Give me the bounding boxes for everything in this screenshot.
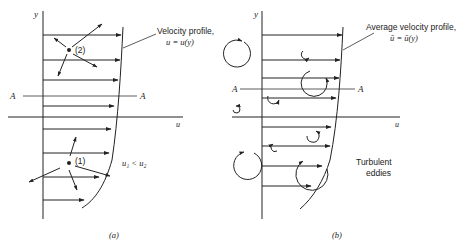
panel-a-caption: (a) — [109, 230, 119, 240]
u-axis-label: u — [395, 120, 399, 129]
eddy-icon — [271, 144, 277, 152]
section-label-left: A — [9, 91, 16, 101]
particle-arrow-icon — [69, 170, 77, 190]
particle-arrow-icon — [75, 166, 110, 176]
eddy-icon — [223, 40, 250, 67]
particle-arrow-icon — [58, 54, 67, 76]
fluid-particle-1 — [29, 137, 110, 190]
velocity-relation-label: u₁ < u₂ — [122, 158, 146, 168]
particle-2-label: (2) — [75, 45, 86, 55]
particle-1-label: (1) — [75, 156, 86, 166]
particle-dot-icon — [67, 48, 71, 52]
eddy-icon — [268, 96, 279, 104]
section-label-right: A — [139, 91, 146, 101]
average-velocity-profile-curve — [300, 27, 343, 209]
eddy-icon — [301, 51, 309, 59]
velocity-profile-diagram: y u A A Velocity profile, u = u(y) — [0, 0, 465, 243]
eddy-icon — [296, 161, 328, 190]
eddy-icon — [233, 106, 240, 113]
eddies-label-line2: eddies — [366, 168, 391, 178]
turbulent-eddies — [223, 40, 327, 190]
profile-label-line2: ū = ū(y) — [390, 33, 418, 43]
eddy-icon — [307, 131, 319, 142]
section-label-right: A — [357, 84, 364, 94]
panel-a: y u A A Velocity profile, u = u(y) — [8, 9, 214, 240]
profile-leader-line — [343, 33, 374, 50]
eddy-icon — [301, 71, 327, 96]
eddies-label-line1: Turbulent — [356, 157, 392, 167]
profile-label-line2: u = u(y) — [166, 37, 194, 47]
y-axis-label: y — [33, 9, 38, 19]
panel-b-caption: (b) — [332, 230, 342, 240]
particle-dot-icon — [67, 161, 71, 165]
profile-label-line1: Average velocity profile, — [366, 22, 456, 32]
panel-b: y u A A Average velocity profile, ū = ū(… — [223, 9, 456, 240]
particle-arrow-icon — [54, 38, 66, 47]
particle-arrow-icon — [29, 168, 60, 182]
section-label-left: A — [231, 84, 238, 94]
y-axis-label: y — [253, 9, 258, 19]
u-axis-label: u — [176, 120, 180, 129]
profile-label-line1: Velocity profile, — [157, 26, 214, 36]
profile-leader-line — [123, 34, 156, 48]
eddy-icon — [234, 152, 262, 180]
